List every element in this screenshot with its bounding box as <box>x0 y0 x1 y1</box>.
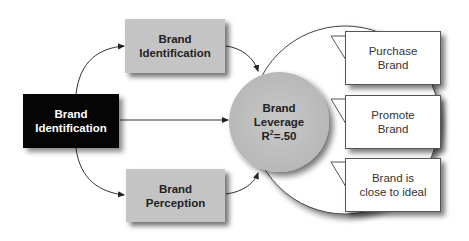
brand-leverage-node: Brand Leverage R2=.50 <box>239 101 319 143</box>
r-value: =.50 <box>274 130 297 142</box>
arrow-bottom-to-center <box>226 173 258 194</box>
arrow-source-to-top <box>76 46 124 94</box>
arrow-source-to-bottom <box>76 148 124 195</box>
top-node-line2: Identification <box>139 46 211 60</box>
r-squared-label: R2=.50 <box>239 129 319 143</box>
top-node-line1: Brand <box>139 32 211 46</box>
outcome-3-line2: close to ideal <box>359 185 426 199</box>
bottom-node-brand-perception: Brand Perception <box>126 169 225 222</box>
source-node-brand-identification: Brand Identification <box>23 94 119 148</box>
r-symbol: R <box>262 130 270 142</box>
outcome-1-line2: Brand <box>369 58 418 72</box>
outcome-2-line1: Promote <box>371 108 414 122</box>
outcome-brand-close-to-ideal: Brand is close to ideal <box>345 158 441 212</box>
outcome-purchase-brand: Purchase Brand <box>345 31 441 85</box>
outcome-2-line2: Brand <box>371 122 414 136</box>
bottom-node-line2: Perception <box>146 196 205 210</box>
outcome-3-line1: Brand is <box>359 171 426 185</box>
top-node-brand-identification: Brand Identification <box>125 19 225 73</box>
source-node-line2: Identification <box>35 121 107 135</box>
arrow-top-to-center <box>226 46 258 71</box>
outcome-promote-brand: Promote Brand <box>345 95 441 149</box>
center-node-line2: Leverage <box>239 115 319 129</box>
bottom-node-line1: Brand <box>146 182 205 196</box>
source-node-line1: Brand <box>35 107 107 121</box>
outcome-1-line1: Purchase <box>369 44 418 58</box>
center-node-line1: Brand <box>239 101 319 115</box>
